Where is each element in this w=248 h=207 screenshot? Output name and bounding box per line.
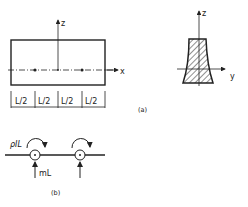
section-y-label: y (230, 72, 235, 81)
support-point-right (80, 68, 83, 71)
moment-label: ρIL (10, 140, 22, 149)
z-axis-label: z (61, 19, 65, 28)
segment-label-4: L/2 (85, 97, 97, 106)
moment-arrow-right (72, 138, 90, 148)
caption-b: (b) (51, 189, 60, 197)
caption-a: (a) (138, 106, 147, 114)
beam-elevation: x z (8, 19, 125, 85)
diagram-canvas: x z L/2 L/2 L/2 L/2 (a) z y (0, 0, 248, 207)
dimension-line: L/2 L/2 L/2 L/2 (11, 91, 105, 108)
support-point-left (33, 68, 36, 71)
x-axis-label: x (120, 67, 125, 76)
segment-label-1: L/2 (15, 97, 27, 106)
section-z-label: z (202, 9, 206, 18)
origin-point (57, 69, 59, 71)
segment-label-2: L/2 (38, 97, 50, 106)
force-label: mL (39, 169, 52, 178)
segment-label-3: L/2 (61, 97, 73, 106)
section-shape (183, 39, 213, 83)
moment-arrow-left (27, 138, 45, 148)
free-body-diagram: ρIL mL (5, 138, 105, 178)
cross-section: z y (177, 9, 235, 86)
